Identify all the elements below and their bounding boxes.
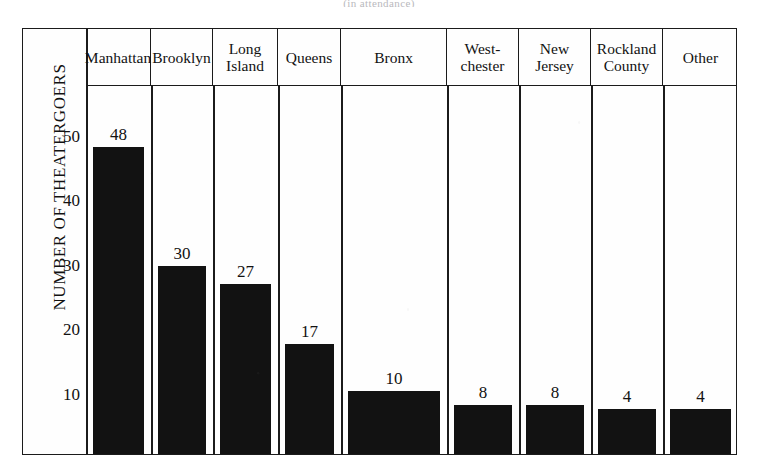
bar-value-label: 8 bbox=[519, 384, 591, 402]
bar-column[interactable]: 27 bbox=[213, 86, 278, 454]
category-header-cell: Manhattan bbox=[86, 29, 151, 85]
category-header-row: ManhattanBrooklynLong IslandQueensBronxW… bbox=[86, 29, 736, 86]
bar-chart: NUMBER OF THEATERGOERS 1020304050 Manhat… bbox=[22, 28, 737, 455]
bar-column[interactable]: 10 bbox=[341, 86, 447, 454]
bar[interactable] bbox=[526, 405, 584, 454]
bar[interactable] bbox=[158, 266, 206, 454]
bar-value-label: 8 bbox=[447, 384, 519, 402]
y-axis-gutter: NUMBER OF THEATERGOERS 1020304050 bbox=[23, 29, 86, 454]
plot-area: 48302717108844 bbox=[88, 86, 737, 454]
bar[interactable] bbox=[598, 409, 656, 454]
column-divider bbox=[341, 86, 343, 454]
category-header-label: Other bbox=[683, 49, 718, 66]
bar-value-label: 4 bbox=[591, 388, 663, 406]
category-header-cell: Queens bbox=[278, 29, 341, 85]
category-header-cell: New Jersey bbox=[519, 29, 591, 85]
y-axis-tick-label: 30 bbox=[50, 257, 80, 274]
category-header-cell: Rockland County bbox=[591, 29, 663, 85]
category-header-cell: Long Island bbox=[213, 29, 278, 85]
bar-column[interactable]: 4 bbox=[591, 86, 663, 454]
column-divider bbox=[447, 86, 449, 454]
bar-value-label: 30 bbox=[151, 245, 213, 263]
bar-column[interactable]: 48 bbox=[86, 86, 151, 454]
column-divider bbox=[591, 86, 593, 454]
bar-value-label: 48 bbox=[86, 126, 151, 144]
y-axis-tick-label: 20 bbox=[50, 321, 80, 338]
y-axis-tick-label: 10 bbox=[50, 386, 80, 403]
column-divider bbox=[278, 86, 280, 454]
bar-column[interactable]: 4 bbox=[663, 86, 738, 454]
category-header-label: Manhattan bbox=[85, 49, 151, 66]
bar[interactable] bbox=[348, 391, 440, 454]
y-axis-tick-label: 50 bbox=[50, 128, 80, 145]
column-divider bbox=[151, 86, 153, 454]
bar[interactable] bbox=[285, 344, 334, 454]
bar[interactable] bbox=[93, 147, 144, 454]
bar-value-label: 4 bbox=[663, 388, 738, 406]
bar-column[interactable]: 8 bbox=[519, 86, 591, 454]
bar[interactable] bbox=[670, 409, 731, 454]
category-header-cell: Bronx bbox=[341, 29, 447, 85]
category-header-cell: Other bbox=[663, 29, 738, 85]
bar-column[interactable]: 30 bbox=[151, 86, 213, 454]
column-divider bbox=[213, 86, 215, 454]
y-axis-tick-label: 40 bbox=[50, 192, 80, 209]
bar-value-label: 10 bbox=[341, 370, 447, 388]
category-header-label: West- chester bbox=[461, 40, 505, 74]
category-header-label: Long Island bbox=[226, 40, 264, 74]
category-header-label: Brooklyn bbox=[152, 49, 211, 66]
bar[interactable] bbox=[220, 284, 271, 454]
category-header-cell: Brooklyn bbox=[151, 29, 213, 85]
bar-column[interactable]: 8 bbox=[447, 86, 519, 454]
category-header-cell: West- chester bbox=[447, 29, 519, 85]
category-header-label: New Jersey bbox=[535, 40, 574, 74]
y-axis-title: NUMBER OF THEATERGOERS bbox=[50, 42, 70, 332]
column-divider bbox=[519, 86, 521, 454]
clipped-caption-remnant: (in attendance) bbox=[0, 0, 758, 7]
category-header-label: Rockland County bbox=[597, 40, 656, 74]
column-divider bbox=[663, 86, 665, 454]
bar-column[interactable]: 17 bbox=[278, 86, 341, 454]
bar-value-label: 27 bbox=[213, 263, 278, 281]
category-header-label: Bronx bbox=[374, 49, 413, 66]
bar-value-label: 17 bbox=[278, 323, 341, 341]
bar[interactable] bbox=[454, 405, 512, 454]
category-header-label: Queens bbox=[286, 49, 333, 66]
